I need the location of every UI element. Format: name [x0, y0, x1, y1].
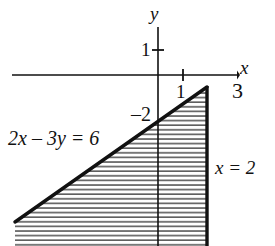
vertical-line-label: x = 2 — [215, 158, 255, 177]
y-axis-label: y — [150, 4, 158, 23]
coordinate-graph-figure: y x 1 1 3 –2 2x – 3y = 6 x = 2 — [0, 0, 275, 246]
x-axis-label: x — [240, 58, 248, 77]
x-tick-label-3: 3 — [232, 80, 243, 102]
y-tick-label-1: 1 — [141, 40, 151, 59]
x-tick-label-1: 1 — [176, 82, 186, 101]
y-intercept-label: –2 — [131, 104, 151, 124]
shaded-region — [15, 87, 207, 246]
line-equation-label: 2x – 3y = 6 — [8, 128, 99, 148]
